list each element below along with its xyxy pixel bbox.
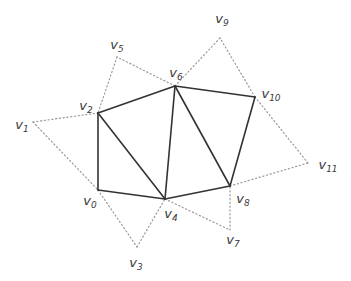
vertex-letter: v bbox=[215, 11, 223, 26]
vertex-letter: v bbox=[164, 206, 172, 221]
solid-edge-v10-v8 bbox=[230, 97, 255, 186]
edge-layer bbox=[0, 0, 351, 281]
vertex-index: 5 bbox=[118, 44, 124, 54]
dotted-edge-v10-v9 bbox=[220, 38, 255, 97]
solid-edge-v8-v4 bbox=[165, 186, 230, 199]
vertex-label-v5: v5 bbox=[110, 38, 123, 54]
dotted-edge-v8-v11 bbox=[230, 163, 308, 186]
vertex-letter: v bbox=[83, 193, 91, 208]
solid-edge-v4-v0 bbox=[98, 190, 165, 199]
vertex-index: 1 bbox=[23, 124, 29, 134]
vertex-label-v11: v11 bbox=[318, 158, 337, 174]
dotted-edge-v1-v0 bbox=[33, 122, 98, 190]
vertex-index: 8 bbox=[244, 198, 250, 208]
vertex-letter: v bbox=[261, 86, 269, 101]
vertex-index: 6 bbox=[177, 72, 183, 82]
triangulation-diagram: v0v1v2v3v4v5v6v7v8v9v10v11 bbox=[0, 0, 351, 281]
vertex-index: 2 bbox=[87, 105, 93, 115]
vertex-label-v7: v7 bbox=[226, 233, 239, 249]
vertex-label-v1: v1 bbox=[15, 118, 28, 134]
solid-edges bbox=[98, 86, 255, 199]
solid-edge-v6-v8 bbox=[175, 86, 230, 186]
solid-edge-v2-v6 bbox=[98, 86, 175, 113]
vertex-label-v9: v9 bbox=[215, 12, 228, 28]
vertex-label-v2: v2 bbox=[79, 99, 92, 115]
solid-edge-v2-v4 bbox=[98, 113, 165, 199]
vertex-letter: v bbox=[169, 65, 177, 80]
vertex-index: 4 bbox=[172, 213, 178, 223]
vertex-letter: v bbox=[236, 191, 244, 206]
vertex-index: 11 bbox=[326, 164, 337, 174]
dotted-edge-v3-v4 bbox=[137, 199, 165, 247]
vertex-label-v3: v3 bbox=[129, 256, 142, 272]
vertex-letter: v bbox=[15, 117, 23, 132]
vertex-letter: v bbox=[129, 255, 137, 270]
vertex-letter: v bbox=[110, 37, 118, 52]
vertex-label-v4: v4 bbox=[164, 207, 177, 223]
dotted-edge-v11-v10 bbox=[255, 97, 308, 163]
vertex-letter: v bbox=[226, 232, 234, 247]
vertex-index: 0 bbox=[91, 200, 97, 210]
vertex-label-v6: v6 bbox=[169, 66, 182, 82]
vertex-label-v0: v0 bbox=[83, 194, 96, 210]
dotted-edge-v6-v5 bbox=[117, 57, 175, 86]
vertex-letter: v bbox=[318, 157, 326, 172]
vertex-label-v8: v8 bbox=[236, 192, 249, 208]
solid-edge-v6-v10 bbox=[175, 86, 255, 97]
vertex-index: 7 bbox=[234, 239, 240, 249]
vertex-index: 9 bbox=[223, 18, 229, 28]
dotted-edge-v0-v3 bbox=[98, 190, 137, 247]
vertex-letter: v bbox=[79, 98, 87, 113]
vertex-index: 10 bbox=[269, 93, 280, 103]
dotted-edge-v5-v2 bbox=[98, 57, 117, 113]
vertex-index: 3 bbox=[137, 262, 143, 272]
vertex-label-v10: v10 bbox=[261, 87, 280, 103]
solid-edge-v4-v6 bbox=[165, 86, 175, 199]
